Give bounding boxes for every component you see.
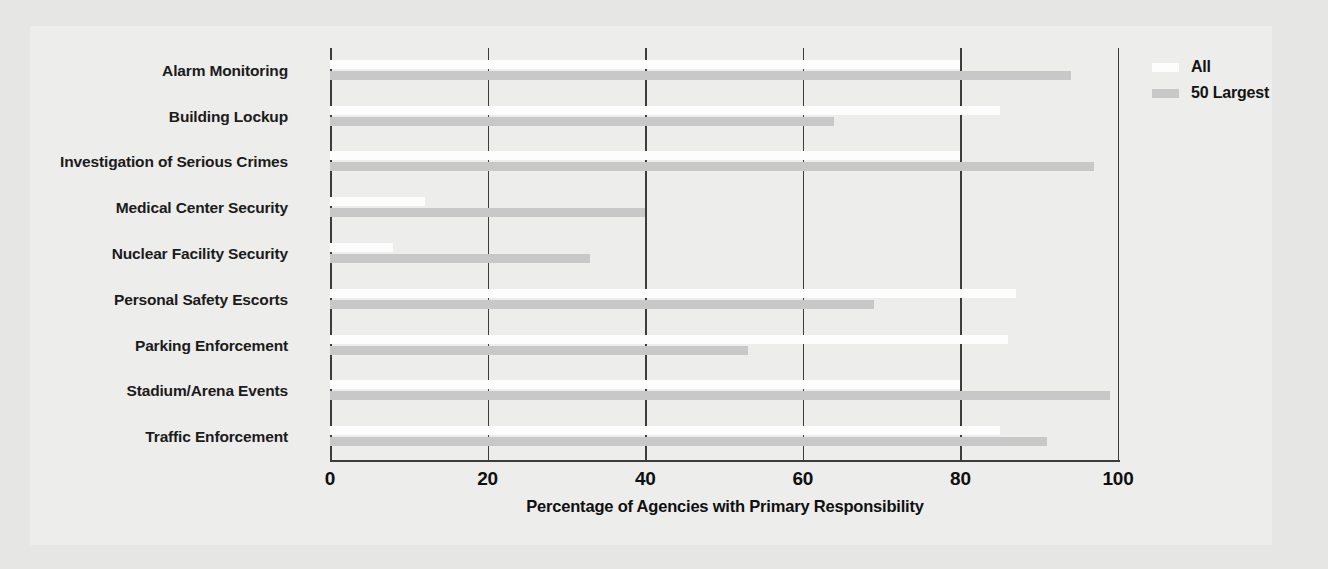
bar-all: [330, 106, 1000, 115]
x-axis-line: [330, 460, 1120, 462]
category-label: Medical Center Security: [0, 200, 288, 216]
bar-50-largest: [330, 117, 834, 126]
bar-50-largest: [330, 346, 748, 355]
bar-50-largest: [330, 208, 645, 217]
category-label: Investigation of Serious Crimes: [0, 154, 288, 170]
x-axis-title: Percentage of Agencies with Primary Resp…: [330, 497, 1120, 516]
bar-50-largest: [330, 437, 1047, 446]
bar-all: [330, 243, 393, 252]
bar-50-largest: [330, 71, 1071, 80]
bar-all: [330, 60, 960, 69]
x-tick-label: 60: [793, 468, 814, 490]
x-tick-label: 20: [477, 468, 498, 490]
legend-label: All: [1191, 59, 1211, 75]
plot-area: [330, 48, 1118, 460]
category-label: Personal Safety Escorts: [0, 292, 288, 308]
legend-label: 50 Largest: [1191, 85, 1269, 101]
bar-all: [330, 289, 1016, 298]
legend-item[interactable]: 50 Largest: [1152, 82, 1302, 104]
legend-item[interactable]: All: [1152, 56, 1302, 78]
bar-50-largest: [330, 391, 1110, 400]
bar-50-largest: [330, 254, 590, 263]
bar-all: [330, 380, 960, 389]
category-label: Alarm Monitoring: [0, 63, 288, 79]
chart-figure: Alarm MonitoringBuilding LockupInvestiga…: [0, 0, 1328, 569]
x-tick-label: 40: [635, 468, 656, 490]
category-axis-labels: Alarm MonitoringBuilding LockupInvestiga…: [0, 22, 300, 422]
legend-swatch-icon: [1152, 89, 1179, 98]
bar-50-largest: [330, 300, 874, 309]
bar-all: [330, 197, 425, 206]
category-label: Building Lockup: [0, 109, 288, 125]
x-tick-label: 80: [950, 468, 971, 490]
legend-swatch-icon: [1152, 63, 1179, 72]
category-label: Nuclear Facility Security: [0, 246, 288, 262]
x-tick-label: 0: [325, 468, 335, 490]
bar-50-largest: [330, 162, 1094, 171]
gridline-100: [1118, 48, 1119, 460]
bar-all: [330, 151, 960, 160]
chart-legend: All50 Largest: [1152, 56, 1302, 108]
bar-all: [330, 335, 1008, 344]
category-label: Stadium/Arena Events: [0, 383, 288, 399]
bar-all: [330, 426, 1000, 435]
category-label: Parking Enforcement: [0, 338, 288, 354]
x-tick-label: 100: [1103, 468, 1134, 490]
category-label: Traffic Enforcement: [0, 429, 288, 445]
